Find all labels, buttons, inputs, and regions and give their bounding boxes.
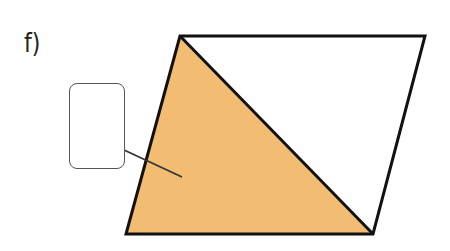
parallelogram-diagram [0,0,450,251]
shaded-triangle [126,36,373,234]
answer-box[interactable] [69,83,125,169]
